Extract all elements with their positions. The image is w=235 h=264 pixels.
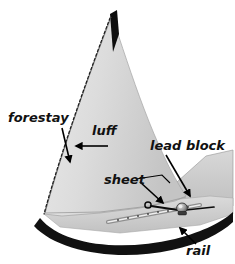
sail-diagram-figure: forestay luff lead block sheet rail <box>0 0 235 264</box>
label-lead-block: lead block <box>150 138 226 153</box>
label-rail: rail <box>186 243 211 258</box>
lead-block-base <box>178 212 187 215</box>
label-forestay: forestay <box>8 110 69 125</box>
label-luff: luff <box>92 123 118 138</box>
diagram-canvas: forestay luff lead block sheet rail <box>0 0 235 264</box>
label-sheet: sheet <box>104 172 146 187</box>
lead-block-highlight <box>179 205 183 208</box>
